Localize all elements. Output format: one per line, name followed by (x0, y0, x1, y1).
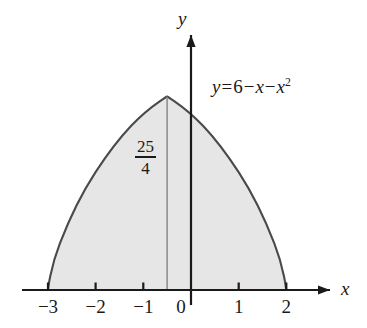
equation-label: y=6−x−x2 (212, 76, 291, 98)
x-tick-label-2: 2 (271, 296, 301, 318)
y-axis-arrowhead (186, 35, 195, 47)
equation-equals: = (220, 76, 233, 97)
parabola-figure (0, 0, 367, 328)
x-tick-label-1: 1 (224, 296, 254, 318)
equation-term-x: x (255, 76, 263, 97)
x-axis-arrowhead (318, 285, 330, 294)
x-tick-label-neg1: −1 (128, 296, 158, 318)
equation-constant: 6 (233, 76, 243, 97)
vertex-value-denominator: 4 (135, 159, 156, 177)
x-tick-label-neg2: −2 (81, 296, 111, 318)
x-axis-label: x (341, 278, 349, 300)
equation-minus-first: − (243, 76, 256, 97)
vertex-value-numerator: 25 (135, 138, 156, 156)
x-tick-label-0: 0 (166, 296, 196, 318)
x-tick-label-neg3: −3 (33, 296, 63, 318)
equation-term-x-squared-base: x (277, 76, 285, 97)
y-axis-label: y (178, 8, 186, 30)
equation-minus-second: − (264, 76, 277, 97)
equation-term-x-squared-exponent: 2 (285, 76, 291, 89)
vertex-value-fraction: 25 4 (135, 138, 156, 177)
fraction-bar-icon (135, 156, 156, 158)
